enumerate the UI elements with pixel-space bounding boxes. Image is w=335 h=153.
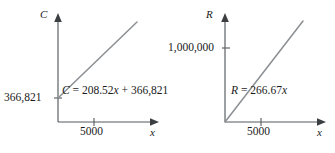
revenue-x-axis-arrowhead	[317, 118, 326, 126]
cost-y-tick-label: 366,821	[4, 92, 41, 104]
revenue-x-axis-label: x	[317, 127, 322, 138]
cost-x-axis-arrowhead	[150, 118, 159, 126]
cost-equation-slope: 208.52	[82, 84, 114, 96]
cost-equation-equals: =	[70, 84, 82, 96]
cost-equation-lhs: C	[62, 84, 70, 96]
cost-equation-intercept: 366,821	[131, 84, 168, 96]
figure-two-line-graphs: C 366,821 5000 x C = 208.52x + 366,821 R…	[0, 0, 335, 153]
cost-y-axis-label: C	[40, 9, 47, 20]
revenue-equation-slope: 266.67	[250, 84, 282, 96]
cost-equation-annotation: C = 208.52x + 366,821	[62, 85, 168, 97]
revenue-y-axis-arrowhead	[221, 13, 229, 22]
revenue-y-axis-label: R	[206, 9, 213, 20]
chart-panel-revenue: R 1,000,000 5000 x R = 266.67x	[167, 0, 335, 153]
revenue-equation-lhs: R	[231, 84, 238, 96]
revenue-equation-xvar: x	[282, 84, 287, 96]
revenue-y-tick-label: 1,000,000	[168, 42, 214, 54]
cost-y-axis-arrowhead	[54, 13, 62, 22]
cost-equation-plus: +	[119, 84, 131, 96]
chart-panel-cost: C 366,821 5000 x C = 208.52x + 366,821	[0, 0, 168, 153]
revenue-equation-equals: =	[238, 84, 250, 96]
cost-x-tick-label: 5000	[80, 126, 103, 138]
revenue-equation-annotation: R = 266.67x	[231, 85, 287, 97]
revenue-x-tick-label: 5000	[247, 126, 270, 138]
revenue-line-series	[225, 21, 303, 122]
cost-x-axis-label: x	[150, 127, 155, 138]
